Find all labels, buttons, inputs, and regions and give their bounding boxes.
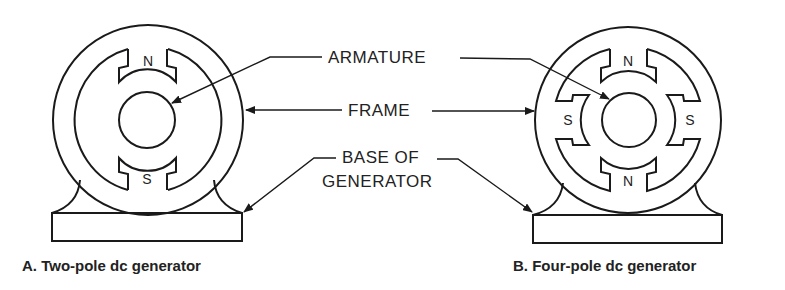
pole-label-s-left: S	[563, 112, 572, 128]
base-plate	[533, 215, 722, 243]
leader-armature-right	[460, 58, 609, 99]
pole-label-n-top: N	[623, 53, 633, 69]
label-base-line2: GENERATOR	[322, 172, 433, 191]
four-pole-generator: N S S N B. Four-pole dc generator	[513, 27, 722, 274]
pole-north	[75, 49, 222, 190]
base-foot-right	[695, 183, 722, 215]
pole-label-n: N	[143, 53, 153, 69]
caption-two-pole: A. Two-pole dc generator	[22, 257, 201, 274]
label-base-line1: BASE OF	[342, 148, 419, 167]
label-armature: ARMATURE	[328, 48, 426, 67]
pole-label-s: S	[142, 171, 151, 187]
dc-generator-diagram: N S A. Two-pole dc generator N S S N B. …	[0, 0, 785, 290]
base-foot-left	[52, 180, 80, 213]
armature	[602, 93, 656, 147]
pole-label-n-bottom: N	[623, 173, 633, 189]
field-poles	[556, 49, 700, 191]
armature	[119, 92, 175, 148]
callouts: ARMATURE FRAME BASE OF GENERATOR	[172, 48, 609, 212]
label-frame: FRAME	[348, 101, 410, 120]
leader-base-right	[437, 159, 532, 212]
base-foot-left	[533, 183, 563, 215]
pole-label-s-right: S	[685, 112, 694, 128]
caption-four-pole: B. Four-pole dc generator	[513, 257, 697, 274]
two-pole-generator: N S A. Two-pole dc generator	[22, 25, 243, 274]
base-plate	[52, 213, 242, 241]
